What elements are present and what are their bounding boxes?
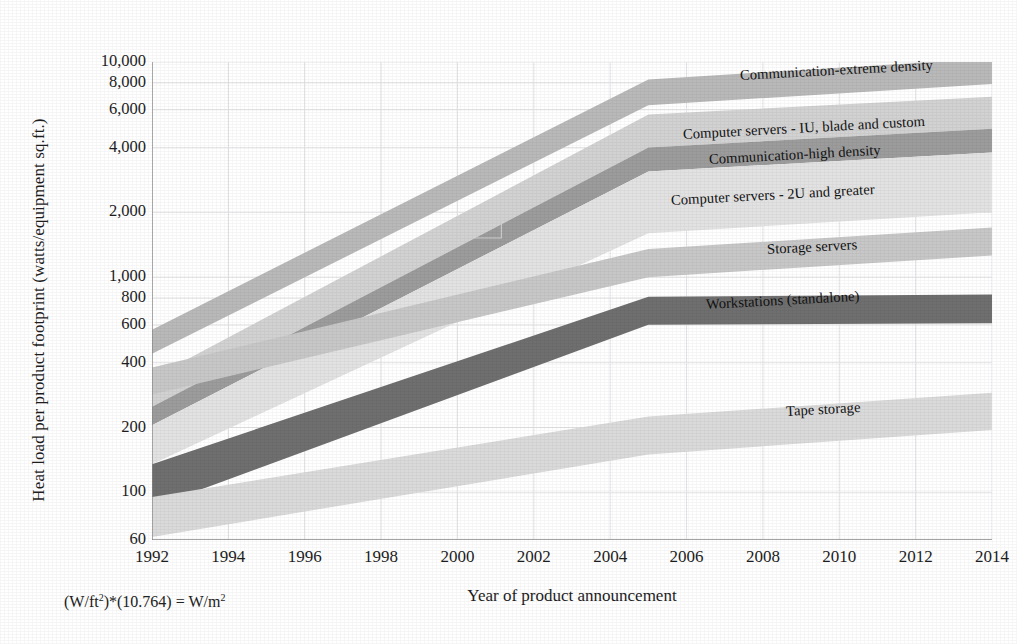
footnote-sup-2: 2 xyxy=(220,592,225,603)
x-tick-label: 1992 xyxy=(135,547,169,567)
plot-area: Communication-extreme densityComputer se… xyxy=(152,62,992,540)
y-tick-label: 200 xyxy=(58,419,146,436)
footnote-part-1: (W/ft xyxy=(64,593,99,610)
y-tick-label: 2,000 xyxy=(58,203,146,220)
unit-conversion-footnote: (W/ft2)*(10.764) = W/m2 xyxy=(64,592,225,611)
x-tick-label: 1998 xyxy=(364,547,398,567)
y-tick-label: 6,000 xyxy=(58,101,146,118)
x-axis-title: Year of product announcement xyxy=(152,586,992,606)
y-tick-label: 800 xyxy=(58,289,146,306)
chart-canvas xyxy=(152,62,992,540)
x-tick-label: 1996 xyxy=(288,547,322,567)
x-tick-label: 2008 xyxy=(746,547,780,567)
y-tick-label: 4,000 xyxy=(58,139,146,156)
series-band xyxy=(152,393,992,537)
footnote-part-2: )*(10.764) = W/m xyxy=(104,593,221,610)
y-tick-label: 1,000 xyxy=(58,268,146,285)
y-tick-label: 10,000 xyxy=(58,53,146,70)
x-tick-label: 2014 xyxy=(975,547,1009,567)
y-axis-tick-labels: 601002004006008001,0002,0004,0006,0008,0… xyxy=(58,0,146,644)
y-tick-label: 100 xyxy=(58,483,146,500)
x-tick-label: 2012 xyxy=(899,547,933,567)
x-tick-label: 2010 xyxy=(822,547,856,567)
y-axis-title: Heat load per product footprint (watts/e… xyxy=(29,75,49,545)
series-bands xyxy=(152,62,992,537)
x-tick-label: 2004 xyxy=(593,547,627,567)
chart-root: Heat load per product footprint (watts/e… xyxy=(0,0,1017,644)
x-tick-label: 2000 xyxy=(440,547,474,567)
x-tick-label: 2006 xyxy=(670,547,704,567)
y-tick-label: 600 xyxy=(58,316,146,333)
y-tick-label: 8,000 xyxy=(58,74,146,91)
x-tick-label: 1994 xyxy=(211,547,245,567)
y-tick-label: 60 xyxy=(58,531,146,548)
y-tick-label: 400 xyxy=(58,354,146,371)
x-tick-label: 2002 xyxy=(517,547,551,567)
